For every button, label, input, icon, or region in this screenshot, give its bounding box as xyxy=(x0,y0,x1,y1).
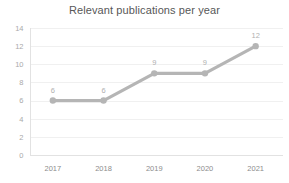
y-tick-label: 4 xyxy=(19,115,23,124)
data-point-marker xyxy=(202,70,208,76)
y-axis-tick-labels: 02468101214 xyxy=(15,24,23,160)
y-tick-label: 12 xyxy=(15,42,23,51)
x-tick-label: 2018 xyxy=(95,164,112,173)
chart-container: Relevant publications per year 024681012… xyxy=(0,0,289,183)
data-point-label: 9 xyxy=(152,58,156,67)
data-point-marker xyxy=(151,70,157,76)
data-point-label: 9 xyxy=(203,58,207,67)
y-tick-label: 6 xyxy=(19,96,23,105)
x-tick-label: 2020 xyxy=(197,164,214,173)
x-axis-tick-labels: 20172018201920202021 xyxy=(45,164,264,173)
data-point-marker xyxy=(252,43,258,49)
gridlines xyxy=(30,29,284,156)
x-tick-label: 2019 xyxy=(146,164,163,173)
data-point-label: 6 xyxy=(101,86,105,95)
y-tick-label: 8 xyxy=(19,78,23,87)
data-point-markers xyxy=(50,43,259,104)
data-point-marker xyxy=(50,97,56,103)
y-tick-label: 10 xyxy=(15,60,23,69)
data-point-label: 6 xyxy=(51,86,55,95)
data-point-marker xyxy=(100,97,106,103)
y-tick-label: 0 xyxy=(19,151,23,160)
data-point-labels: 669912 xyxy=(51,31,260,94)
line-chart-plot: 02468101214 20172018201920202021 669912 xyxy=(0,0,289,183)
y-tick-label: 14 xyxy=(15,24,23,33)
y-tick-label: 2 xyxy=(19,133,23,142)
axis-lines xyxy=(30,28,284,156)
x-tick-label: 2017 xyxy=(45,164,62,173)
x-tick-label: 2021 xyxy=(247,164,264,173)
data-point-label: 12 xyxy=(251,31,259,40)
